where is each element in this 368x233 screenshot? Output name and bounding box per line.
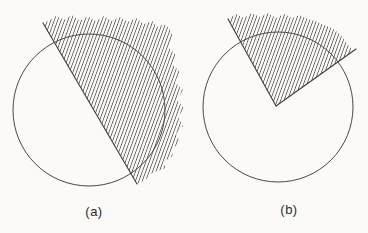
hatched-circles-diagram (0, 0, 368, 233)
hatched-region-a (43, 15, 184, 184)
diagram-stage: (a) (b) (0, 0, 368, 233)
figure-b-label: (b) (280, 202, 297, 217)
hatched-region-b (228, 13, 353, 106)
figure-a-label: (a) (85, 204, 102, 219)
